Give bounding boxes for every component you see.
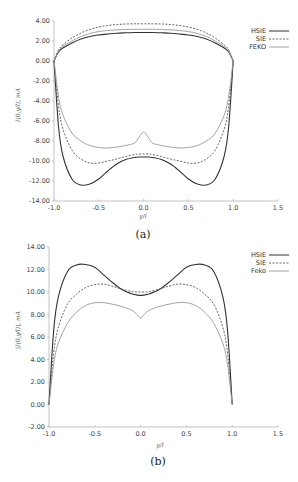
y-tick-label: 2.00 bbox=[36, 37, 50, 45]
x-tick-label: 0.5 bbox=[183, 204, 193, 212]
y-tick-label: 14.00 bbox=[26, 243, 45, 251]
chart-a-axes: 4.002.000.00-2.00-4.00-6.00-8.00-10.00-1… bbox=[29, 17, 283, 212]
x-tick-label: 1.5 bbox=[273, 204, 283, 212]
chart-b: 14.0012.0010.008.006.004.002.000.00-2.00… bbox=[14, 243, 289, 468]
chart-a-legend: HSIE SIE FEKO bbox=[249, 27, 289, 51]
x-tick-label: -1.0 bbox=[48, 204, 61, 212]
x-tick-label: 1.0 bbox=[227, 430, 237, 438]
y-tick-label: -4.00 bbox=[33, 97, 50, 105]
chart-a-xlabel: y/l bbox=[138, 212, 146, 220]
x-tick-label: 1.5 bbox=[273, 430, 283, 438]
y-tick-label: -8.00 bbox=[33, 137, 50, 145]
chart-a-caption: (a) bbox=[135, 228, 150, 241]
x-tick-label: 0.0 bbox=[135, 430, 145, 438]
y-tick-label: 4.00 bbox=[36, 17, 50, 25]
chart-a-lines bbox=[54, 24, 233, 186]
chart-b-xlabel: y/l bbox=[155, 441, 163, 449]
legend-hsie-label: HSIE bbox=[251, 27, 266, 35]
x-tick-label: -1.0 bbox=[43, 430, 56, 438]
x-tick-label: -0.5 bbox=[92, 204, 105, 212]
series-feko-lower bbox=[54, 61, 233, 148]
y-tick-label: 0.00 bbox=[36, 57, 50, 65]
chart-b-axes: 14.0012.0010.008.006.004.002.000.00-2.00… bbox=[26, 243, 283, 438]
series-hsie bbox=[49, 264, 232, 404]
series-feko-upper bbox=[54, 29, 233, 61]
y-tick-label: 4.00 bbox=[31, 356, 45, 364]
legend-sie-label: SIE bbox=[256, 259, 266, 267]
chart-b-caption: (b) bbox=[150, 455, 166, 468]
chart-b-lines bbox=[49, 264, 232, 404]
y-tick-label: -2.00 bbox=[33, 77, 50, 85]
legend-feko-label: Feko bbox=[251, 267, 266, 275]
chart-b-ylabel: |I(0,y/l)|, mA bbox=[14, 310, 22, 349]
y-tick-label: 10.00 bbox=[26, 288, 45, 296]
y-tick-label: 0.00 bbox=[31, 401, 45, 409]
series-sie-lower bbox=[54, 61, 233, 163]
y-tick-label: -10.00 bbox=[29, 157, 50, 165]
y-tick-label: 2.00 bbox=[31, 378, 45, 386]
y-tick-label: -12.00 bbox=[29, 177, 50, 185]
series-hsie-lower bbox=[54, 61, 233, 185]
y-tick-label: 8.00 bbox=[31, 311, 45, 319]
chart-b-legend: HSIE SIE Feko bbox=[251, 251, 289, 275]
chart-a: 4.002.000.00-2.00-4.00-6.00-8.00-10.00-1… bbox=[14, 17, 289, 241]
legend-hsie-label: HSIE bbox=[251, 251, 266, 259]
series-feko bbox=[49, 302, 232, 404]
legend-feko-label: FEKO bbox=[249, 43, 266, 51]
y-tick-label: 6.00 bbox=[31, 333, 45, 341]
y-tick-label: -6.00 bbox=[33, 117, 50, 125]
x-tick-label: 0.0 bbox=[138, 204, 148, 212]
legend-sie-label: SIE bbox=[256, 35, 266, 43]
figure: 4.002.000.00-2.00-4.00-6.00-8.00-10.00-1… bbox=[0, 0, 298, 482]
series-sie bbox=[49, 284, 232, 404]
x-tick-label: 0.5 bbox=[181, 430, 191, 438]
y-tick-label: 12.00 bbox=[26, 266, 45, 274]
chart-a-ylabel: I(0,y/l), mA bbox=[14, 87, 22, 123]
x-tick-label: 1.0 bbox=[228, 204, 238, 212]
x-tick-label: -0.5 bbox=[88, 430, 101, 438]
